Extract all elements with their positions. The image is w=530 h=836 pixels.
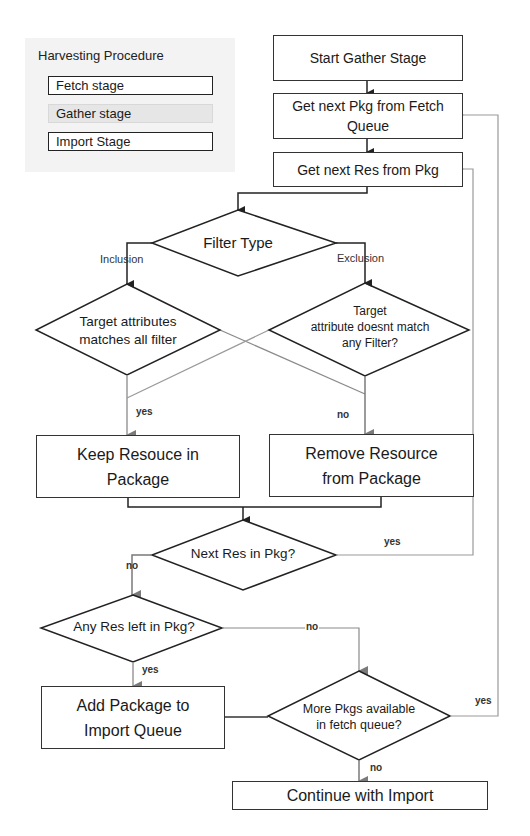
edge-label-yes-keep: yes [136,406,153,417]
node-keep-resource: Keep Resouce in Package [36,435,240,498]
node-continue-import: Continue with Import [232,781,488,810]
diamond-filter-type-label: Filter Type [170,234,306,251]
edge-label-yes-next-res: yes [384,536,401,547]
edge-label-no-remove: no [337,409,349,420]
node-get-next-pkg: Get next Pkg from Fetch Queue [273,93,463,139]
node-get-next-res-label: Get next Res from Pkg [297,162,439,178]
edge-label-inclusion: Inclusion [100,253,143,265]
node-remove-resource: Remove Resource from Package [269,434,474,497]
edge-label-exclusion: Exclusion [337,252,384,264]
node-add-package: Add Package to Import Queue [41,686,225,749]
node-keep-resource-label: Keep Resouce in Package [77,442,199,492]
edge-any-left-no [222,628,359,671]
edge-res-to-filter [238,186,367,210]
node-start-gather: Start Gather Stage [273,35,463,81]
edge-next-res-yes-loop [336,169,473,555]
edge-label-yes-any-left: yes [142,664,159,675]
edge-label-no-next-res: no [126,560,138,571]
diamond-inclusion-check-label: Target attributes matches all filter [46,313,210,349]
diamond-more-pkgs-label: More Pkgs available in fetch queue? [283,701,435,733]
edge-more-pkgs-yes-loop [450,115,498,716]
edge-label-no-any-left: no [305,621,319,632]
node-get-next-res: Get next Res from Pkg [273,152,463,187]
diamond-next-res-label: Next Res in Pkg? [170,546,316,561]
diamond-any-left-label: Any Res left in Pkg? [56,619,212,634]
node-remove-resource-label: Remove Resource from Package [305,441,438,491]
edge-label-no-more-pkgs: no [370,762,382,773]
diamond-exclusion-check-label: Target attribute doesnt match any Filter… [280,303,460,351]
node-add-package-label: Add Package to Import Queue [77,693,190,743]
edge-label-yes-more-pkgs: yes [475,695,492,706]
node-start-gather-label: Start Gather Stage [310,50,427,66]
node-get-next-pkg-label: Get next Pkg from Fetch Queue [292,96,444,136]
node-continue-import-label: Continue with Import [287,787,434,805]
